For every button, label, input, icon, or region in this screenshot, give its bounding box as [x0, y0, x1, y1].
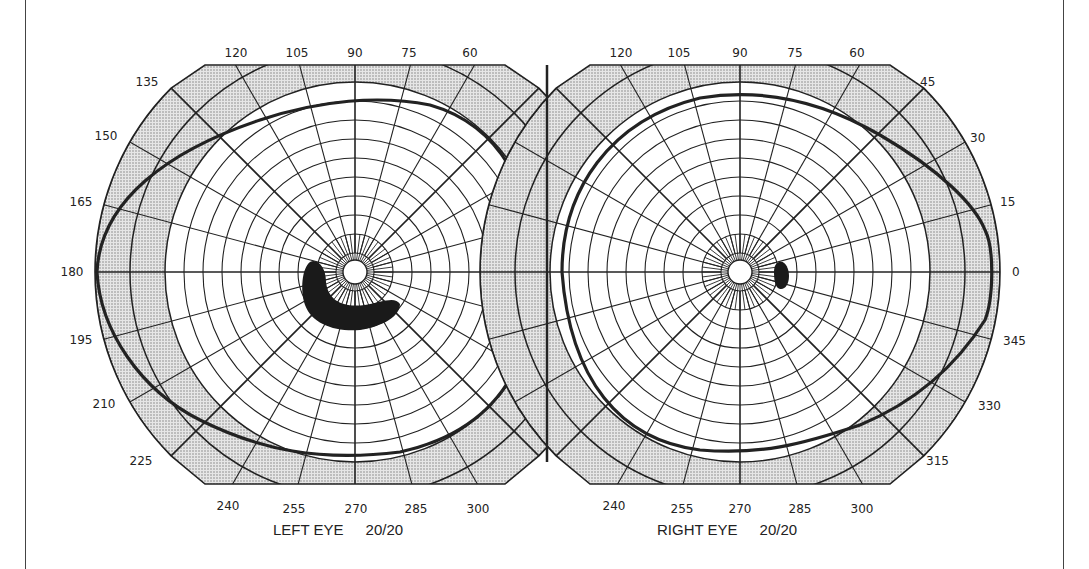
right-eye-caption: RIGHT EYE20/20: [657, 521, 797, 538]
svg-text:240: 240: [217, 499, 240, 513]
visual-field-chart: 1201059075601351501651801952102252402552…: [0, 0, 1089, 569]
left-eye-caption: LEFT EYE20/20: [273, 521, 403, 538]
svg-text:15: 15: [1000, 195, 1015, 209]
svg-text:0: 0: [1012, 265, 1020, 279]
svg-text:30: 30: [970, 131, 985, 145]
svg-text:165: 165: [70, 195, 93, 209]
svg-text:90: 90: [732, 46, 747, 60]
svg-text:300: 300: [467, 502, 490, 516]
right-eye-field: 1201059075604530150345330315240255270285…: [480, 12, 1026, 532]
svg-text:90: 90: [347, 46, 362, 60]
svg-text:180: 180: [61, 265, 84, 279]
svg-text:255: 255: [671, 502, 694, 516]
svg-text:225: 225: [130, 454, 153, 468]
svg-text:150: 150: [95, 129, 118, 143]
svg-text:270: 270: [345, 502, 368, 516]
svg-text:135: 135: [136, 75, 159, 89]
svg-text:60: 60: [462, 46, 477, 60]
svg-text:75: 75: [401, 46, 416, 60]
svg-text:210: 210: [93, 397, 116, 411]
svg-text:285: 285: [789, 502, 812, 516]
svg-text:270: 270: [729, 502, 752, 516]
svg-text:195: 195: [70, 333, 93, 347]
svg-text:330: 330: [978, 399, 1001, 413]
svg-text:60: 60: [849, 46, 864, 60]
svg-text:105: 105: [668, 46, 691, 60]
svg-text:255: 255: [283, 502, 306, 516]
svg-text:345: 345: [1003, 334, 1026, 348]
svg-text:120: 120: [225, 46, 248, 60]
svg-text:120: 120: [610, 46, 633, 60]
svg-text:105: 105: [286, 46, 309, 60]
svg-text:75: 75: [787, 46, 802, 60]
svg-text:240: 240: [603, 499, 626, 513]
svg-text:315: 315: [926, 454, 949, 468]
svg-text:285: 285: [405, 502, 428, 516]
svg-text:300: 300: [851, 502, 874, 516]
svg-text:45: 45: [920, 75, 935, 89]
